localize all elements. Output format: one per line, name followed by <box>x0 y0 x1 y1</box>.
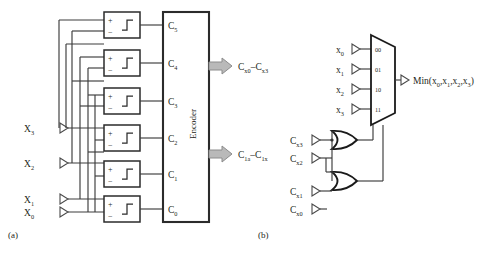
mux-label-x3-sub: 3 <box>341 110 344 117</box>
output-top-to-sub: x3 <box>262 67 268 74</box>
comparator-2-plus: + <box>108 129 113 138</box>
cx3-sub: x3 <box>296 141 302 148</box>
svg-text:X1: X1 <box>24 195 34 207</box>
svg-text:x2: x2 <box>336 85 344 97</box>
comparator-3-minus: − <box>108 104 113 113</box>
comparator-0-plus: + <box>108 200 113 209</box>
input-label-x0-sub: 0 <box>31 213 34 220</box>
comparator-block-1[interactable]: + − <box>104 161 163 187</box>
svg-text:X2: X2 <box>24 159 34 171</box>
comparator-1-plus: + <box>108 165 113 174</box>
comparator-block-2[interactable]: + − <box>104 125 163 151</box>
comparator-1-minus: − <box>108 177 113 186</box>
routing-bus-a <box>59 20 104 212</box>
input-pins-a <box>60 123 104 217</box>
mux-select-00: 00 <box>375 46 381 53</box>
input-labels-a: X3 X2 X1 X0 <box>24 124 34 220</box>
input-label-x1-sub: 1 <box>31 200 34 207</box>
comparator-block-3[interactable]: + − <box>104 88 163 114</box>
output-bottom-to-sub: 1x <box>261 155 268 162</box>
encoder-output-bottom: C1a–C1x <box>209 146 269 162</box>
c2-sub: 2 <box>174 139 177 146</box>
svg-text:x1: x1 <box>336 65 344 77</box>
comparator-4-plus: + <box>108 54 113 63</box>
mux-input-x3[interactable] <box>352 104 371 114</box>
control-inputs: Cx3 Cx2 Cx1 Cx0 <box>290 135 332 217</box>
svg-text:x0: x0 <box>336 45 344 57</box>
mux-output: Min(x0,x1,x2,x3) <box>395 75 474 88</box>
comparator-block-5[interactable]: + − <box>104 12 163 38</box>
svg-text:Cx1: Cx1 <box>290 187 303 199</box>
mux-label-x0-sub: 0 <box>341 50 344 57</box>
control-input-cx0[interactable] <box>312 204 327 214</box>
control-input-cx1[interactable] <box>312 186 332 196</box>
figure-container: X3 X2 X1 X0 <box>0 0 490 254</box>
svg-text:Cx0: Cx0 <box>290 205 303 217</box>
or-gate-top[interactable] <box>330 125 373 149</box>
mux-label-x1-sub: 1 <box>341 70 344 77</box>
output-arrow-top-icon <box>209 58 232 74</box>
encoder-output-top: Cx0–Cx3 <box>209 58 268 74</box>
comparator-3-plus: + <box>108 92 113 101</box>
comparator-block-0[interactable]: + − <box>104 196 163 222</box>
encoder-block[interactable]: Encoder <box>163 12 209 222</box>
panel-b-caption: (b) <box>258 230 269 240</box>
mux-input-x2[interactable] <box>352 84 371 94</box>
c1-sub: 1 <box>174 175 177 182</box>
output-arrow-bottom-icon <box>209 146 232 162</box>
input-label-x3-sub: 3 <box>31 129 34 136</box>
cx1-sub: x1 <box>296 192 302 199</box>
comparator-5-plus: + <box>108 16 113 25</box>
mux-label-x2-sub: 2 <box>341 90 344 97</box>
min-prefix: Min(x <box>413 76 437 87</box>
input-pin-x3[interactable] <box>60 123 104 133</box>
panel-a: X3 X2 X1 X0 <box>8 12 269 240</box>
mux-select-10: 10 <box>375 86 381 93</box>
cx0-sub: x0 <box>296 210 302 217</box>
mux-inputs: x0 x1 x2 x3 <box>336 44 371 117</box>
comparator-5-minus: − <box>108 28 113 37</box>
output-label-top: Cx0–Cx3 <box>238 62 268 74</box>
svg-text:Cx3: Cx3 <box>290 136 303 148</box>
panel-a-caption: (a) <box>8 230 18 240</box>
comparator-2-minus: − <box>108 141 113 150</box>
svg-text:X0: X0 <box>24 208 34 220</box>
c3-sub: 3 <box>174 102 177 109</box>
input-pin-x2[interactable] <box>60 158 104 168</box>
mux-output-label: Min(x0,x1,x2,x3) <box>413 76 474 88</box>
output-buffer-icon <box>401 75 409 85</box>
svg-text:Cx2: Cx2 <box>290 154 303 166</box>
input-pin-x0[interactable] <box>60 207 104 217</box>
encoder-label: Encoder <box>188 109 198 139</box>
svg-text:x3: x3 <box>336 105 344 117</box>
comparator-block-4[interactable]: + − <box>104 50 163 76</box>
mux-input-x1[interactable] <box>352 64 371 74</box>
figure-svg: X3 X2 X1 X0 <box>0 0 490 254</box>
comparator-blocks-a: + − + − + − <box>104 12 163 222</box>
svg-text:X3: X3 <box>24 124 34 136</box>
output-label-bottom: C1a–C1x <box>238 150 269 162</box>
control-input-cx2[interactable] <box>312 153 332 163</box>
mux-select-11: 11 <box>375 106 381 113</box>
mux-input-x0[interactable] <box>352 44 371 54</box>
cx2-sub: x2 <box>296 159 302 166</box>
comparator-4-minus: − <box>108 66 113 75</box>
mux-select-01: 01 <box>375 66 381 73</box>
comparator-0-minus: − <box>108 212 113 221</box>
c5-sub: 5 <box>174 26 177 33</box>
c0-sub: 0 <box>174 210 177 217</box>
multiplexer-block[interactable]: 00 01 10 11 <box>371 35 395 125</box>
input-label-x2-sub: 2 <box>31 164 34 171</box>
input-pin-x1[interactable] <box>60 194 104 204</box>
min-suffix: ) <box>471 76 474 87</box>
control-input-cx3[interactable] <box>312 135 332 145</box>
panel-b: x0 x1 x2 x3 00 01 10 11 Min(x0,x1,x <box>258 35 474 240</box>
